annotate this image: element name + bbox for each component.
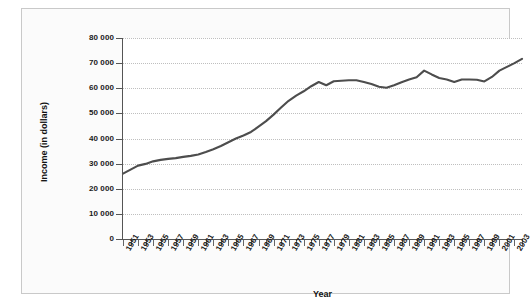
y-axis-tick-label: 20 000 (54, 184, 114, 193)
y-axis-title: Income (in dollars) (39, 82, 49, 202)
x-axis-tick (259, 240, 260, 246)
y-axis-tick (116, 139, 123, 140)
series-polyline (123, 59, 522, 174)
x-axis-tick (123, 240, 124, 246)
y-axis-tick-label: 60 000 (54, 83, 114, 92)
y-axis-labels: 80 00070 00060 00050 00040 00030 00020 0… (48, 9, 114, 307)
x-axis-title: Year (123, 289, 522, 299)
y-axis-tick-label: 40 000 (54, 134, 114, 143)
y-axis-tick-label: 70 000 (54, 58, 114, 67)
y-axis-tick (116, 189, 123, 190)
income-line-series (123, 38, 522, 239)
y-axis-tick-label: 10 000 (54, 209, 114, 218)
y-axis-tick (116, 239, 123, 240)
y-axis-tick (116, 113, 123, 114)
y-axis-tick (116, 38, 123, 39)
y-axis-tick-label: 30 000 (54, 159, 114, 168)
chart-frame: 80 00070 00060 00050 00040 00030 00020 0… (21, 8, 510, 294)
y-axis-tick (116, 214, 123, 215)
chart-figure: 80 00070 00060 00050 00040 00030 00020 0… (0, 0, 531, 307)
y-axis-tick (116, 164, 123, 165)
y-axis-tick (116, 63, 123, 64)
y-axis-tick (116, 88, 123, 89)
y-axis-tick-label: 80 000 (54, 33, 114, 42)
y-axis-tick-label: 50 000 (54, 108, 114, 117)
y-axis-tick-label: 0 (54, 234, 114, 243)
plot-area (123, 38, 522, 239)
